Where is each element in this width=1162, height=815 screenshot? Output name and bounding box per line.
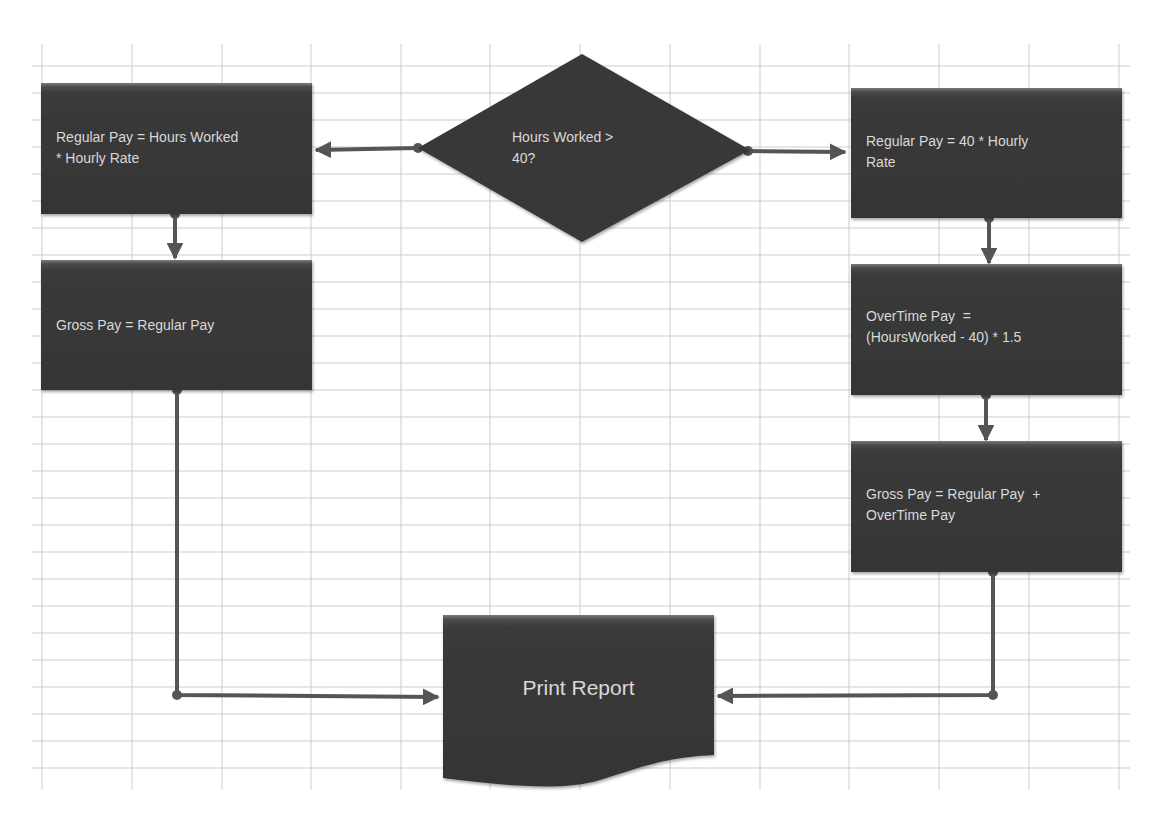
decision-label-line2: 40? — [512, 148, 672, 169]
decision-label-line1: Hours Worked > — [512, 127, 672, 148]
overtime-pay-line1: OverTime Pay = — [866, 306, 1116, 327]
right-gross-pay-label: Gross Pay = Regular Pay + OverTime Pay — [866, 484, 1116, 526]
edge-left-gross-to-print — [177, 390, 438, 697]
left-regular-pay-line2: * Hourly Rate — [56, 148, 306, 169]
print-report-label: Print Report — [443, 675, 714, 701]
right-regular-pay-label: Regular Pay = 40 * Hourly Rate — [866, 131, 1116, 173]
overtime-pay-line2: (HoursWorked - 40) * 1.5 — [866, 327, 1116, 348]
right-regular-pay-line1: Regular Pay = 40 * Hourly — [866, 131, 1116, 152]
left-regular-pay-label: Regular Pay = Hours Worked * Hourly Rate — [56, 127, 306, 169]
right-regular-pay-line2: Rate — [866, 152, 1116, 173]
edge-decision-to-right-regular — [748, 151, 845, 152]
decision-label: Hours Worked > 40? — [512, 127, 672, 169]
left-gross-pay-label: Gross Pay = Regular Pay — [56, 315, 306, 336]
edge-right-gross-to-print — [718, 572, 993, 696]
right-gross-pay-line1: Gross Pay = Regular Pay + — [866, 484, 1116, 505]
overtime-pay-label: OverTime Pay = (HoursWorked - 40) * 1.5 — [866, 306, 1116, 348]
edge-decision-to-left-regular — [316, 148, 418, 150]
left-gross-pay-line1: Gross Pay = Regular Pay — [56, 315, 306, 336]
left-regular-pay-line1: Regular Pay = Hours Worked — [56, 127, 306, 148]
right-gross-pay-line2: OverTime Pay — [866, 505, 1116, 526]
